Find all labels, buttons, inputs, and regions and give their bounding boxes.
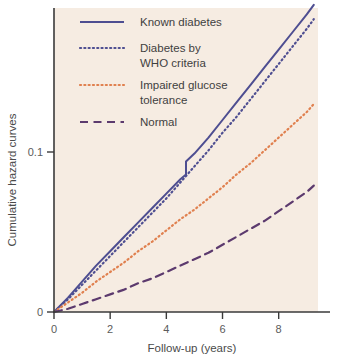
x-tick-label: 2 [107, 323, 113, 335]
x-tick-label: 4 [163, 323, 169, 335]
chart-figure: 00.1 02468 Cumulative hazard curves Foll… [0, 0, 338, 360]
legend-label-0: Known diabetes [140, 16, 222, 28]
legend-label-1: Diabetes by [140, 42, 201, 54]
x-tick-label: 6 [219, 323, 225, 335]
y-tick-label: 0 [37, 306, 43, 318]
x-axis-title: Follow-up (years) [148, 342, 237, 354]
legend-label-3: Normal [140, 116, 177, 128]
x-tick-label: 0 [51, 323, 57, 335]
legend-label-1-line2: WHO criteria [140, 57, 206, 69]
x-tick-label: 8 [276, 323, 282, 335]
y-axis-title: Cumulative hazard curves [6, 113, 18, 246]
y-tick-label: 0.1 [28, 146, 43, 158]
legend-label-2: Impaired glucose [140, 79, 228, 91]
legend-label-2-line2: tolerance [140, 94, 187, 106]
cumulative-hazard-chart: 00.1 02468 Cumulative hazard curves Foll… [0, 0, 338, 360]
